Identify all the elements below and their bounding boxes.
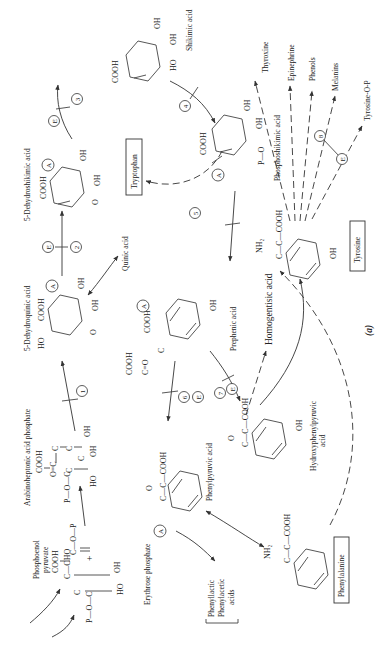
hydroxyphenylpyruvic-label: Hydroxyphenylpyruvic <box>309 400 318 471</box>
arabinoheptonic-label: Arabinoheptonic acid phosphate <box>23 408 32 506</box>
svg-text:C—C—COOH: C—C—COOH <box>283 513 292 563</box>
svg-text:E: E <box>51 119 59 123</box>
svg-text:1: 1 <box>79 389 87 393</box>
prephenic-acid-structure: COOH C=O C COOH OH A Prephenic acid <box>125 299 238 375</box>
svg-text:4: 4 <box>182 104 190 108</box>
svg-text:C: C <box>157 348 166 353</box>
svg-text:COOH: COOH <box>37 298 46 321</box>
svg-text:OH: OH <box>169 33 178 45</box>
svg-text:HO: HO <box>116 583 125 595</box>
phosphoenol-pyruvate-label: Phosphoenol <box>32 540 41 579</box>
svg-text:5: 5 <box>192 211 200 215</box>
svg-text:COOH: COOH <box>35 450 44 473</box>
svg-text:P—O—C: P—O—C <box>85 591 94 623</box>
svg-text:OH: OH <box>77 277 86 289</box>
phosphoenol-pyruvate-structure: Phosphoenol pyruvate COOH C—O—P <box>32 523 90 579</box>
svg-text:NH₂: NH₂ <box>263 544 272 559</box>
svg-text:OH: OH <box>153 17 162 29</box>
svg-text:acid: acid <box>318 434 327 447</box>
svg-text:NH₂: NH₂ <box>255 238 264 253</box>
svg-text:O: O <box>89 329 98 335</box>
arabinoheptonic-acid-phosphate-structure: Arabinoheptonic acid phosphate COOH O=C … <box>23 408 98 506</box>
svg-text:OH: OH <box>113 561 122 573</box>
svg-text:E: E <box>339 157 347 161</box>
svg-text:C: C <box>77 456 86 461</box>
svg-text:OH: OH <box>89 445 98 457</box>
product-phenols: Phenols <box>308 57 317 81</box>
dehydroquinic-label: 5-Dehydroquinic acid <box>23 285 32 351</box>
svg-text:C: C <box>65 468 74 473</box>
phenylalanine-label: Phenylalanine <box>337 554 346 597</box>
svg-text:A: A <box>49 284 57 289</box>
svg-text:E: E <box>195 395 203 399</box>
svg-text:O: O <box>91 199 100 205</box>
phenylalanine-structure: NH₂ C—C—COOH Phenylalanine <box>263 513 349 603</box>
figure-label: (a) <box>364 325 375 336</box>
svg-text:2: 2 <box>73 245 81 249</box>
svg-text:O: O <box>227 435 236 441</box>
prephenic-acid-label: Prephenic acid <box>229 306 238 351</box>
diagram-canvas: P—O—C C C—CHO HO OH Erythrose phosphate … <box>0 0 384 651</box>
svg-text:C—C—COOH: C—C—COOH <box>241 397 250 447</box>
svg-text:C: C <box>51 446 60 451</box>
dehydroshikimic-label: 5-Dehydroshikimic acid <box>23 148 32 221</box>
plus-sign: + <box>85 556 95 561</box>
quinic-acid-label: Quinic acid <box>121 236 130 271</box>
svg-text:E: E <box>45 245 53 249</box>
tyrosine-structure: NH₂ C—C—COOH OH Tyrosine <box>255 209 365 279</box>
svg-text:OH: OH <box>91 299 100 311</box>
svg-text:COOH: COOH <box>39 176 48 199</box>
svg-text:6: 6 <box>181 395 189 399</box>
svg-text:acids: acids <box>227 590 236 605</box>
product-thyroxine: Thyroxine <box>261 41 270 73</box>
product-epinephrine: Epinephrine <box>287 44 296 81</box>
hydroxyphenylpyruvic-acid-structure: O C—C—COOH OH Hydroxyphenylpyruvic acid <box>227 397 327 471</box>
svg-text:COOH: COOH <box>111 60 120 83</box>
svg-text:COOH: COOH <box>51 550 60 573</box>
svg-text:A: A <box>157 529 165 534</box>
svg-text:C—C—COOH: C—C—COOH <box>275 209 284 259</box>
svg-text:C: C <box>73 590 82 595</box>
product-tyrosine-o-p: Tyrosine-O-P <box>363 80 372 121</box>
svg-text:A: A <box>215 173 223 178</box>
svg-text:OH: OH <box>79 149 88 161</box>
svg-text:HO: HO <box>37 337 46 349</box>
svg-text:COOH: COOH <box>125 352 134 375</box>
svg-text:P—O—C: P—O—C <box>63 471 72 503</box>
svg-text:COOH: COOH <box>199 132 208 155</box>
svg-text:OH: OH <box>255 117 264 129</box>
phosphoshikimic-label: Phosphoshikimic acid <box>273 115 282 181</box>
svg-text:C—O—P: C—O—P <box>69 523 78 555</box>
svg-text:C—C—COOH: C—C—COOH <box>159 451 168 501</box>
svg-text:8: 8 <box>317 134 325 138</box>
phenyllactic-label: Phenyllactic <box>207 579 216 617</box>
svg-text:pyruvate: pyruvate <box>41 546 50 573</box>
svg-text:OH: OH <box>83 425 92 437</box>
svg-text:O: O <box>145 485 154 491</box>
svg-text:A: A <box>45 163 53 168</box>
svg-text:O=C: O=C <box>49 461 58 477</box>
homogentisic-acid-label: Homogentisic acid <box>264 273 274 345</box>
svg-text:HO: HO <box>169 59 178 71</box>
svg-text:7: 7 <box>217 391 225 395</box>
svg-text:OH: OH <box>329 247 338 259</box>
svg-text:OH: OH <box>209 299 218 311</box>
product-melanins: Melanins <box>331 63 340 91</box>
svg-text:Phenylacetic: Phenylacetic <box>217 578 226 617</box>
shikimic-acid-structure: COOH OH OH HO Shikimic acid <box>111 9 194 83</box>
svg-text:3: 3 <box>74 97 82 101</box>
svg-text:C: C <box>65 446 74 451</box>
svg-text:P—O: P—O <box>257 147 266 165</box>
tryptophan-label: Tryptophan <box>130 154 139 189</box>
phenylpyruvic-acid-structure: O C—C—COOH A Phenylpyruvic acid <box>145 443 214 537</box>
shikimic-acid-label: Shikimic acid <box>185 9 194 51</box>
svg-text:C=O: C=O <box>141 359 150 375</box>
svg-text:COOH: COOH <box>143 310 152 333</box>
dehydroquinic-acid-structure: 5-Dehydroquinic acid HO COOH OH OH O A <box>23 277 100 351</box>
dehydroshikimic-acid-structure: 5-Dehydroshikimic acid COOH OH OH O A <box>23 148 102 221</box>
shikimate-pathway-diagram: P—O—C C C—CHO HO OH Erythrose phosphate … <box>0 0 384 651</box>
tyrosine-label: Tyrosine <box>353 236 362 263</box>
svg-text:E: E <box>229 387 237 391</box>
svg-text:OH: OH <box>93 174 102 186</box>
svg-text:OH: OH <box>295 419 304 431</box>
